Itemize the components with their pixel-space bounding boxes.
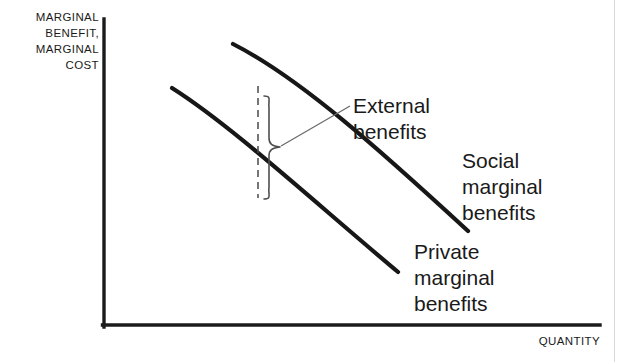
private-marginal-benefits-label: Private marginal benefits bbox=[414, 240, 495, 315]
y-axis-caption-line-2: BENEFIT, bbox=[45, 27, 99, 39]
external-benefits-leader-line bbox=[281, 106, 350, 146]
y-axis-caption-line-1: MARGINAL bbox=[36, 11, 99, 23]
private-marginal-benefits-label-line-3: benefits bbox=[414, 292, 488, 315]
social-marginal-benefits-label-line-1: Social bbox=[462, 149, 519, 172]
private-marginal-benefits-label-line-2: marginal bbox=[414, 266, 495, 289]
social-marginal-benefits-label-line-3: benefits bbox=[462, 201, 536, 224]
y-axis-caption: MARGINAL BENEFIT, MARGINAL COST bbox=[36, 11, 99, 71]
x-axis-caption: QUANTITY bbox=[539, 335, 600, 347]
social-marginal-benefits-label: Social marginal benefits bbox=[462, 149, 543, 224]
diagram-canvas: MARGINAL BENEFIT, MARGINAL COST QUANTITY… bbox=[0, 0, 629, 362]
external-benefits-brace bbox=[264, 96, 280, 199]
external-benefits-label-line-1: External bbox=[353, 94, 430, 117]
private-marginal-benefits-label-line-1: Private bbox=[414, 240, 479, 263]
y-axis-caption-line-4: COST bbox=[65, 59, 99, 71]
externality-diagram-figure: MARGINAL BENEFIT, MARGINAL COST QUANTITY… bbox=[0, 0, 629, 362]
social-marginal-benefits-label-line-2: marginal bbox=[462, 175, 543, 198]
external-benefits-label-line-2: benefits bbox=[353, 120, 427, 143]
y-axis-caption-line-3: MARGINAL bbox=[36, 43, 99, 55]
external-benefits-label: External benefits bbox=[353, 94, 430, 143]
